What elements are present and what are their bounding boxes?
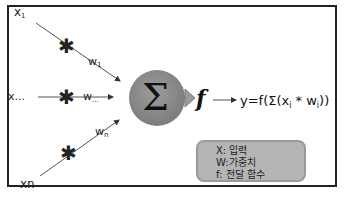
legend-item-weight: W:가중치	[216, 157, 304, 169]
multiply-icon-1: ✱	[58, 36, 75, 56]
sigma-icon: Σ	[142, 78, 169, 116]
weight-label-n: wn	[95, 126, 108, 139]
legend-item-transfer: f: 전달 함수	[216, 169, 304, 181]
input-label-x1: x1	[14, 6, 26, 20]
connector-arrow-icon	[185, 89, 195, 107]
input-label-xdots: x...	[8, 91, 25, 102]
input-arrow-1	[36, 23, 120, 81]
output-formula: y=f(Σ(xi * wi))	[240, 93, 329, 110]
multiply-icon-n: ✱	[60, 143, 77, 163]
weight-label-mid: w...	[83, 91, 99, 104]
legend-box: X: 입력 W:가중치 f: 전달 함수	[196, 140, 306, 182]
legend-item-input: X: 입력	[216, 145, 304, 157]
activation-function-icon: f	[196, 87, 205, 109]
multiply-icon-mid: ✱	[58, 87, 75, 107]
weight-label-1: w1	[88, 56, 101, 69]
input-label-xn: xn	[20, 178, 35, 190]
